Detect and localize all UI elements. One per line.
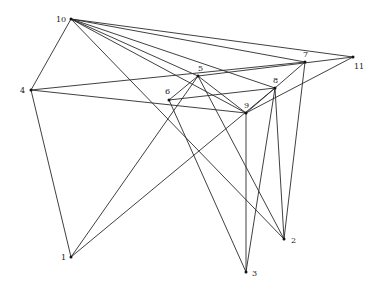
node-2 bbox=[283, 238, 286, 241]
edge-4-7 bbox=[31, 62, 305, 90]
edge-6-3 bbox=[169, 100, 246, 272]
node-5 bbox=[197, 75, 200, 78]
edge-7-2 bbox=[284, 62, 305, 239]
node-label-11: 11 bbox=[354, 62, 364, 71]
edge-8-2 bbox=[275, 88, 284, 239]
edge-5-11 bbox=[198, 57, 353, 76]
node-7 bbox=[304, 61, 307, 64]
graph-diagram: 1234567891011 bbox=[0, 0, 377, 291]
node-label-2: 2 bbox=[291, 236, 296, 245]
edge-1-8 bbox=[71, 88, 275, 257]
edge-5-2 bbox=[198, 76, 284, 239]
node-label-10: 10 bbox=[56, 15, 66, 24]
node-8 bbox=[274, 87, 277, 90]
edge-5-9 bbox=[198, 76, 246, 113]
node-6 bbox=[168, 99, 171, 102]
node-3 bbox=[245, 271, 248, 274]
node-label-4: 4 bbox=[20, 86, 25, 95]
node-1 bbox=[70, 256, 73, 259]
edge-1-5 bbox=[71, 76, 198, 257]
node-label-6: 6 bbox=[165, 87, 170, 96]
edge-10-9 bbox=[71, 19, 246, 113]
edge-4-9 bbox=[31, 90, 246, 113]
edge-10-4 bbox=[31, 19, 71, 90]
node-label-7: 7 bbox=[303, 50, 308, 59]
labels-layer: 1234567891011 bbox=[20, 15, 364, 278]
node-label-3: 3 bbox=[252, 269, 257, 278]
node-10 bbox=[70, 18, 73, 21]
node-label-9: 9 bbox=[244, 101, 249, 110]
node-11 bbox=[352, 56, 355, 59]
edge-4-1 bbox=[31, 90, 71, 257]
node-label-5: 5 bbox=[198, 64, 203, 73]
node-label-8: 8 bbox=[273, 76, 278, 85]
node-9 bbox=[245, 112, 248, 115]
edge-10-8 bbox=[71, 19, 275, 88]
edge-8-3 bbox=[246, 88, 275, 272]
node-label-1: 1 bbox=[61, 253, 66, 262]
node-4 bbox=[30, 89, 33, 92]
